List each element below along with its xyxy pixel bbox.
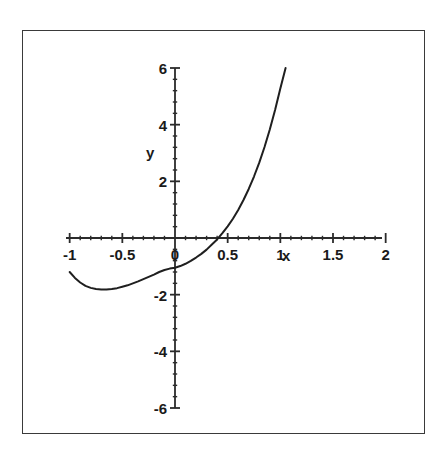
y-tick-label: 2 [159, 174, 167, 189]
x-tick-label: 0.5 [217, 247, 238, 262]
y-axis-label: y [146, 145, 154, 160]
axes-group [66, 68, 382, 408]
x-tick-label: 2 [381, 247, 389, 262]
x-tick-label: -0.5 [109, 247, 135, 262]
y-tick-label: -6 [154, 401, 167, 416]
y-tick-label: -2 [154, 287, 167, 302]
figure-root: -1-0.500.511.52 -6-4-2246 y x [0, 0, 447, 454]
x-tick-label: 1.5 [323, 247, 344, 262]
x-tick-label: 0 [171, 247, 179, 262]
y-tick-label: 4 [159, 117, 167, 132]
x-tick-label: -1 [63, 247, 76, 262]
chart-canvas [0, 0, 447, 454]
y-tick-label: 6 [159, 61, 167, 76]
x-axis-label: x [282, 248, 290, 263]
y-tick-label: -4 [154, 344, 167, 359]
